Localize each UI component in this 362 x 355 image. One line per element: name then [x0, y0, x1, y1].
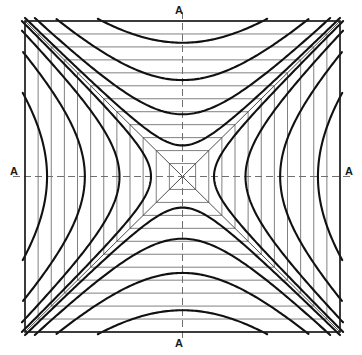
axis-label-left: A	[10, 166, 18, 177]
axis-label-top: A	[175, 5, 183, 16]
axis-label-right: A	[345, 166, 353, 177]
axis-label-bottom: A	[175, 338, 183, 349]
principal-axes-group	[13, 12, 352, 341]
hyperbolic-net-figure: A A A A	[0, 0, 362, 355]
figure-canvas	[0, 0, 362, 355]
